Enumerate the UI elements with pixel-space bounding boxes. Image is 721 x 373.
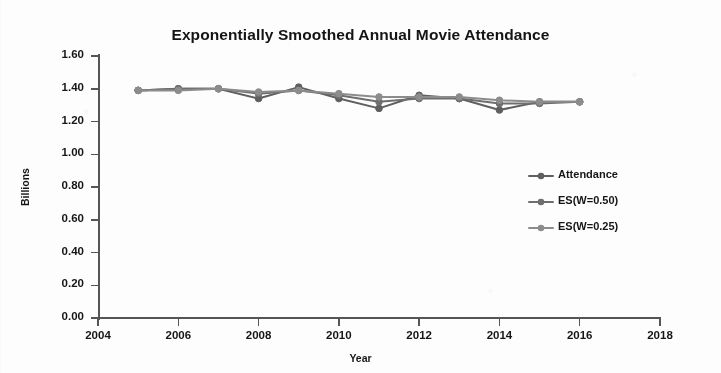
data-point-marker: [376, 94, 383, 101]
chart-legend: AttendanceES(W=0.50)ES(W=0.25): [528, 168, 618, 232]
legend-label: ES(W=0.25): [558, 220, 618, 232]
legend-item-es-w-0-25[interactable]: ES(W=0.25): [528, 220, 618, 232]
legend-label: Attendance: [558, 168, 618, 180]
data-point-marker: [576, 99, 583, 106]
legend-item-attendance[interactable]: Attendance: [528, 168, 618, 180]
data-point-marker: [135, 87, 142, 94]
legend-line-marker-icon: [528, 220, 554, 232]
legend-item-es-w-0-50[interactable]: ES(W=0.50): [528, 194, 618, 206]
data-point-marker: [215, 85, 222, 92]
data-point-marker: [496, 97, 503, 104]
data-point-marker: [295, 87, 302, 94]
data-point-marker: [536, 99, 543, 106]
data-point-marker: [175, 87, 182, 94]
legend-line-marker-icon: [528, 194, 554, 206]
data-point-marker: [255, 89, 262, 96]
legend-label: ES(W=0.50): [558, 194, 618, 206]
legend-line-marker-icon: [528, 168, 554, 180]
chart-figure: Exponentially Smoothed Annual Movie Atte…: [0, 0, 721, 373]
data-point-marker: [456, 94, 463, 101]
series-line: [138, 89, 580, 102]
data-point-marker: [376, 105, 383, 112]
data-point-marker: [336, 90, 343, 97]
data-point-marker: [416, 94, 423, 101]
data-point-marker: [496, 107, 503, 114]
